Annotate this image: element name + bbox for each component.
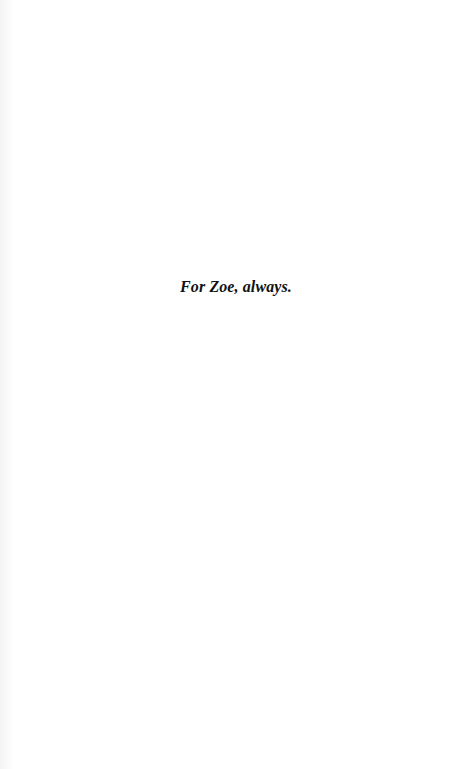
page-edge-shadow (0, 0, 14, 769)
book-page: For Zoe, always. (0, 0, 472, 769)
dedication-text: For Zoe, always. (0, 277, 472, 297)
